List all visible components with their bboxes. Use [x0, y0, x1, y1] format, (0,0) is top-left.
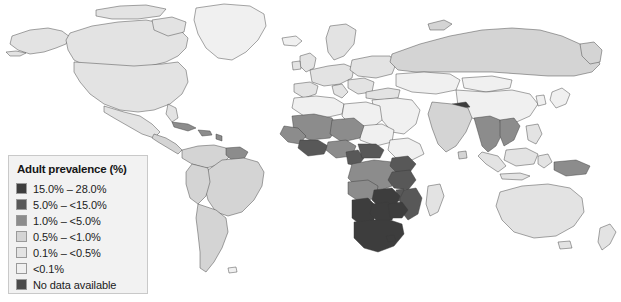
legend-swatch-no-data — [16, 279, 27, 290]
legend-item-6: No data available — [16, 277, 140, 292]
legend-label-under-01: <0.1% — [33, 263, 64, 275]
region-falkland-islands — [228, 267, 237, 273]
world-map-figure: Adult prevalence (%) 15.0% – 28.0% 5.0% … — [0, 0, 621, 302]
legend-label-01-05: 0.1% – <0.5% — [33, 247, 101, 259]
legend-item-4: 0.1% – <0.5% — [16, 245, 140, 260]
legend-label-no-data: No data available — [33, 279, 116, 291]
region-lesotho — [386, 235, 396, 242]
map-legend: Adult prevalence (%) 15.0% – 28.0% 5.0% … — [8, 155, 148, 294]
legend-label-5-15: 5.0% – <15.0% — [33, 199, 107, 211]
region-sri-lanka — [458, 151, 467, 159]
region-tasmania — [558, 241, 572, 249]
legend-item-1: 5.0% – <15.0% — [16, 197, 140, 212]
legend-title: Adult prevalence (%) — [17, 163, 140, 175]
region-korea — [536, 95, 546, 106]
region-eastern-europe — [350, 56, 396, 78]
legend-swatch-15-28 — [16, 183, 27, 194]
legend-item-0: 15.0% – 28.0% — [16, 181, 140, 196]
legend-swatch-01-05 — [16, 247, 27, 258]
legend-label-1-5: 1.0% – <5.0% — [33, 215, 101, 227]
region-ireland — [292, 61, 301, 70]
legend-swatch-5-15 — [16, 199, 27, 210]
legend-swatch-05-1 — [16, 231, 27, 242]
legend-swatch-1-5 — [16, 215, 27, 226]
legend-swatch-under-01 — [16, 263, 27, 274]
legend-item-5: <0.1% — [16, 261, 140, 276]
legend-label-05-1: 0.5% – <1.0% — [33, 231, 101, 243]
legend-item-3: 0.5% – <1.0% — [16, 229, 140, 244]
legend-item-2: 1.0% – <5.0% — [16, 213, 140, 228]
legend-label-15-28: 15.0% – 28.0% — [33, 183, 106, 195]
